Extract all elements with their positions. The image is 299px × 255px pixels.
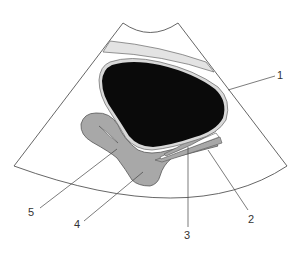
label-2: 2 — [248, 214, 254, 225]
label-1: 1 — [277, 70, 283, 81]
leader-line-1 — [228, 76, 275, 90]
ultrasound-diagram — [0, 0, 299, 255]
label-3: 3 — [184, 230, 190, 241]
label-5: 5 — [28, 207, 34, 218]
label-4: 4 — [74, 219, 80, 230]
